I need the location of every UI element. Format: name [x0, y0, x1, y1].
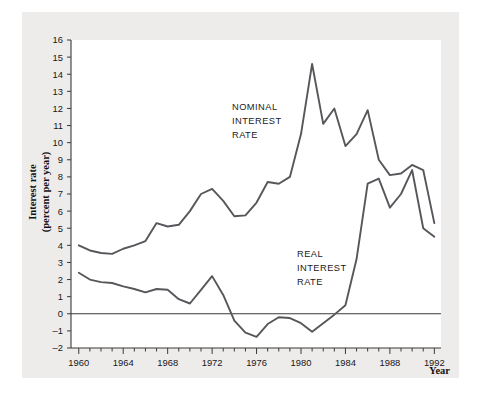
- real-annotation-line2: INTEREST: [297, 263, 347, 273]
- y-axis-title: Interest rate (percent per year): [27, 151, 52, 232]
- x-tick-label: 1968: [157, 357, 178, 368]
- y-tick-label: 3: [58, 257, 63, 268]
- y-tick-label: 14: [53, 69, 63, 80]
- x-tick-label: 1960: [68, 357, 89, 368]
- y-tick-label: 7: [58, 188, 63, 199]
- nominal-annotation-line2: INTEREST: [232, 116, 282, 126]
- x-tick-label: 1980: [291, 357, 312, 368]
- y-tick-label: –2: [53, 342, 63, 353]
- y-tick-label: 4: [58, 240, 63, 251]
- x-tick-label: 1988: [379, 357, 400, 368]
- y-tick-label: 5: [58, 223, 63, 234]
- y-tick-label: 8: [58, 171, 63, 182]
- y-tick-label: 10: [53, 137, 63, 148]
- y-axis-tick-labels: –2–1012345678910111213141516: [53, 34, 63, 353]
- y-tick-label: 9: [58, 154, 63, 165]
- y-tick-label: 0: [58, 308, 63, 319]
- y-tick-label: 12: [53, 103, 63, 114]
- x-axis-tick-labels: 196019641968197219761980198419881992: [68, 357, 444, 368]
- y-tick-label: 2: [58, 274, 63, 285]
- y-axis-title-line2: (percent per year): [40, 151, 52, 232]
- y-tick-label: 13: [53, 86, 63, 97]
- y-tick-label: 15: [53, 52, 63, 63]
- y-tick-label: –1: [53, 325, 63, 336]
- real-annotation-line1: REAL: [297, 249, 323, 259]
- nominal-annotation-line3: RATE: [232, 130, 258, 140]
- x-tick-label: 1964: [113, 357, 134, 368]
- y-tick-label: 16: [53, 34, 63, 45]
- y-tick-label: 1: [58, 291, 63, 302]
- chart-container: –2–1012345678910111213141516 19601964196…: [0, 0, 481, 402]
- interest-rate-line-chart: –2–1012345678910111213141516 19601964196…: [0, 0, 481, 402]
- x-tick-label: 1984: [335, 357, 356, 368]
- real-annotation-line3: RATE: [297, 277, 323, 287]
- x-tick-label: 1972: [202, 357, 223, 368]
- y-tick-label: 11: [53, 120, 63, 131]
- y-tick-label: 6: [58, 206, 63, 217]
- x-tick-label: 1976: [246, 357, 267, 368]
- nominal-annotation-line1: NOMINAL: [232, 102, 278, 112]
- x-axis-title: Year: [429, 365, 450, 376]
- y-axis-title-line1: Interest rate: [27, 164, 38, 220]
